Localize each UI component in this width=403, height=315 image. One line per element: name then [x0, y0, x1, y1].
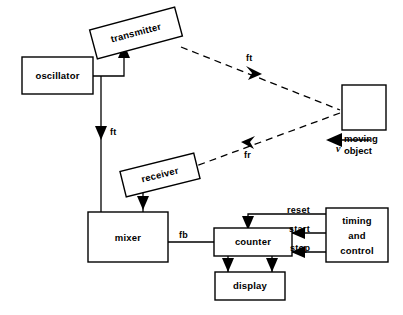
moving-object-label-line2: object: [344, 145, 373, 156]
mixer-label: mixer: [115, 232, 141, 243]
timing-label-line1: timing: [342, 215, 372, 226]
propagation-path-transmitted: [181, 47, 340, 110]
wire-oscillator-to-mixer: [95, 76, 107, 212]
label-fb-beat: fb: [179, 230, 188, 240]
arrowhead-ft-reference: [95, 126, 107, 140]
block-oscillator[interactable]: oscillator: [22, 57, 93, 94]
label-stop: stop: [290, 243, 310, 253]
arrowhead-display-left: [222, 258, 234, 272]
propagation-path-received: [196, 113, 340, 166]
display-label: display: [233, 280, 268, 291]
wire-counter-to-display: [222, 256, 278, 272]
block-counter[interactable]: counter: [214, 228, 292, 256]
block-mixer[interactable]: mixer: [88, 212, 168, 262]
timing-label-line2: and: [348, 230, 366, 241]
moving-object-box: [342, 85, 386, 130]
arrowhead-display-right: [266, 258, 278, 272]
block-moving-object[interactable]: moving object: [342, 85, 386, 156]
label-ft-reference: ft: [110, 127, 117, 137]
arrowhead-mixer-input: [137, 196, 149, 210]
block-receiver[interactable]: receiver: [120, 153, 200, 197]
block-timing-and-control[interactable]: timing and control: [326, 208, 388, 262]
dashed-line-receive: [196, 113, 340, 166]
diagram-canvas: oscillator transmitter receiver mixer co…: [0, 0, 403, 315]
wire-path-reset: [248, 214, 326, 228]
counter-label: counter: [235, 236, 271, 247]
label-start: start: [289, 224, 310, 234]
dashed-line-transmit: [181, 47, 340, 110]
label-ft-transmitted: ft: [246, 53, 253, 63]
block-display[interactable]: display: [215, 272, 285, 300]
diagram-svg: oscillator transmitter receiver mixer co…: [0, 0, 403, 315]
label-reset: reset: [287, 205, 310, 215]
label-velocity: v: [336, 143, 341, 154]
moving-object-label-line1: moving: [344, 133, 378, 144]
oscillator-label: oscillator: [35, 70, 79, 81]
label-fr-received: fr: [244, 150, 251, 160]
timing-label-line3: control: [340, 245, 374, 256]
block-transmitter[interactable]: transmitter: [90, 7, 183, 59]
